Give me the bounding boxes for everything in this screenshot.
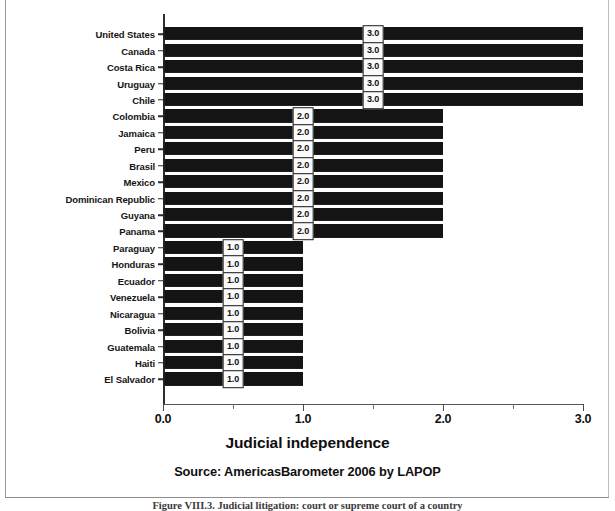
bar-row: United States3.0 [163,26,583,42]
x-axis-major-tick [303,404,304,411]
bar-category-label: Mexico [123,177,155,188]
bar-category-label: Nicaragua [110,308,155,319]
x-axis-minor-tick [513,404,514,409]
bar-rows-container: United States3.0Canada3.0Costa Rica3.0Ur… [163,26,583,388]
bar-category-label: Bolivia [125,325,155,336]
bar-row: Honduras1.0 [163,256,583,272]
bar-category-label: Canada [121,45,155,56]
bar-category-label: Chile [132,94,155,105]
bar-value-label: 1.0 [223,338,244,356]
bar-category-label: Guyana [121,210,155,221]
bar-value-label: 1.0 [223,239,244,257]
bar-row: Haiti1.0 [163,355,583,371]
bar-value-label: 1.0 [223,371,244,389]
bar-row: Ecuador1.0 [163,273,583,289]
bar-category-label: Jamaica [118,127,155,138]
bar-value-label: 2.0 [293,108,314,126]
bar-value-label: 3.0 [363,58,384,76]
bar-row: Panama2.0 [163,223,583,239]
bar-value-label: 3.0 [363,75,384,93]
bar-category-label: United States [96,29,155,40]
bar-row: Guatemala1.0 [163,338,583,354]
bar-value-label: 3.0 [363,91,384,109]
bar-value-label: 1.0 [223,272,244,290]
bar-row: Venezuela1.0 [163,289,583,305]
x-axis-tick-label: 3.0 [575,412,591,426]
bar-row: Chile3.0 [163,92,583,108]
bar-category-label: Venezuela [110,292,155,303]
bar-category-label: Dominican Republic [65,193,155,204]
bar-row: Canada3.0 [163,42,583,58]
bar-value-label: 1.0 [223,305,244,323]
bar-value-label: 2.0 [293,190,314,208]
x-axis-minor-tick [373,404,374,409]
bar-row: Guyana2.0 [163,207,583,223]
bar-category-label: Honduras [111,259,155,270]
x-axis-major-tick [583,404,584,411]
bar-row: Peru2.0 [163,141,583,157]
bar-category-label: Peru [134,144,155,155]
x-axis-major-tick [163,404,164,411]
x-axis-title: Judicial independence [0,434,615,452]
bar-value-label: 2.0 [293,206,314,224]
bar-row: Mexico2.0 [163,174,583,190]
bar-value-label: 1.0 [223,256,244,274]
x-axis-minor-tick [233,404,234,409]
x-axis-tick-label: 0.0 [155,412,171,426]
bar-row: Colombia2.0 [163,108,583,124]
bar-value-label: 1.0 [223,354,244,372]
x-axis-major-tick [443,404,444,411]
figure-caption: Figure VIII.3. Judicial litigation: cour… [0,500,615,511]
bar-category-label: El Salvador [104,374,155,385]
bar-value-label: 2.0 [293,173,314,191]
bar-row: Jamaica2.0 [163,125,583,141]
bar-category-label: Panama [119,226,155,237]
bar-value-label: 2.0 [293,223,314,241]
bar-category-label: Paraguay [113,242,155,253]
bar-value-label: 1.0 [223,321,244,339]
bar-value-label: 3.0 [363,42,384,60]
bar-category-label: Guatemala [107,341,155,352]
bar-row: Nicaragua1.0 [163,305,583,321]
bar-category-label: Uruguay [117,78,155,89]
bar-chart: United States3.0Canada3.0Costa Rica3.0Ur… [0,0,615,511]
bar-row: Dominican Republic2.0 [163,190,583,206]
bar-row: Costa Rica3.0 [163,59,583,75]
bar-category-label: Brasil [129,160,155,171]
bar-value-label: 2.0 [293,124,314,142]
bar-row: Bolivia1.0 [163,322,583,338]
bar-value-label: 2.0 [293,157,314,175]
x-axis-tick-label: 1.0 [295,412,311,426]
bar-row: Paraguay1.0 [163,240,583,256]
bar-row: El Salvador1.0 [163,371,583,387]
bar-category-label: Ecuador [118,275,155,286]
bar-row: Uruguay3.0 [163,75,583,91]
bar-value-label: 3.0 [363,25,384,43]
bar-category-label: Costa Rica [107,62,155,73]
bar-category-label: Colombia [113,111,155,122]
bar-value-label: 1.0 [223,288,244,306]
bar-row: Brasil2.0 [163,158,583,174]
source-note: Source: AmericasBarometer 2006 by LAPOP [0,464,615,479]
bar-value-label: 2.0 [293,140,314,158]
bar-category-label: Haiti [135,357,155,368]
x-axis-tick-label: 2.0 [435,412,451,426]
